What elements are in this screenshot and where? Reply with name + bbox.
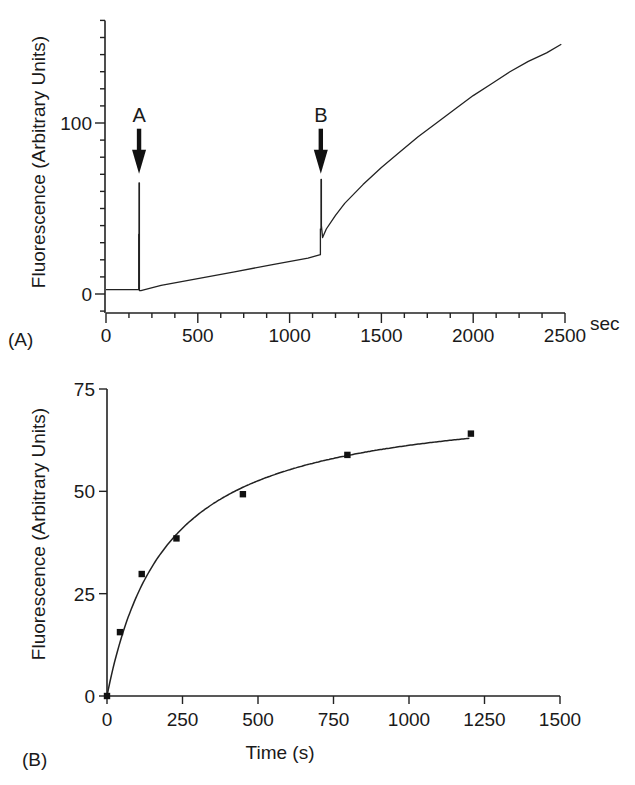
data-point	[468, 430, 474, 436]
panel-a-trace	[106, 44, 561, 290]
data-point	[344, 452, 350, 458]
data-point	[117, 629, 123, 635]
x-tick-label: 500	[242, 709, 274, 730]
x-tick-label: 2000	[452, 325, 494, 346]
x-tick-label: 1000	[388, 709, 430, 730]
x-tick-label: 0	[102, 709, 113, 730]
panel-a-axes	[95, 20, 565, 323]
panel-a-arrows: AB	[132, 104, 328, 174]
x-tick-label: 250	[167, 709, 199, 730]
arrow-head	[314, 150, 328, 174]
arrow-label: A	[132, 104, 146, 126]
panel-b-y-tick-labels: 0255075	[74, 379, 95, 707]
y-tick-label: 100	[60, 113, 92, 134]
x-tick-label: 1500	[360, 325, 402, 346]
panel-b-x-tick-labels: 0250500750100012501500	[102, 709, 581, 730]
panel-a-label: (A)	[8, 329, 33, 350]
panel-b-label: (B)	[22, 749, 47, 770]
x-tick-label: 1000	[268, 325, 310, 346]
panel-a-x-tick-labels: 05001000150020002500	[101, 325, 586, 346]
panel-a-y-tick-labels: 0100	[60, 113, 92, 305]
figure: Fluorescence (Arbitrary Units) AB 050010…	[0, 0, 635, 785]
panel-b-y-axis-label: Fluorescence (Arbitrary Units)	[28, 408, 49, 660]
arrow-down-icon	[319, 129, 323, 153]
data-point	[173, 535, 179, 541]
panel-a-y-axis-label: Fluorescence (Arbitrary Units)	[28, 36, 49, 288]
y-tick-label: 75	[74, 379, 95, 400]
fluorescence-trace	[106, 44, 561, 290]
arrow-marker-b: B	[314, 104, 328, 174]
panel-b-axes	[99, 389, 560, 704]
arrow-down-icon	[137, 129, 141, 153]
x-tick-label: 1500	[539, 709, 581, 730]
x-tick-label: 2500	[544, 325, 586, 346]
x-tick-label: 1250	[463, 709, 505, 730]
x-tick-label: 500	[182, 325, 214, 346]
chart-panel-b: Fluorescence (Arbitrary Units) 025050075…	[22, 379, 581, 770]
x-tick-label: 0	[101, 325, 112, 346]
data-point	[240, 491, 246, 497]
data-point	[139, 571, 145, 577]
x-tick-label: 750	[318, 709, 350, 730]
panel-b-fit-curve	[107, 438, 469, 696]
arrow-head	[132, 150, 146, 174]
panel-a-x-unit-label: sec	[590, 313, 620, 334]
y-tick-label: 0	[84, 686, 95, 707]
y-tick-label: 25	[74, 584, 95, 605]
arrow-label: B	[314, 104, 327, 126]
y-tick-label: 50	[74, 481, 95, 502]
panel-b-x-axis-label: Time (s)	[246, 742, 315, 763]
fit-curve	[107, 438, 469, 696]
arrow-marker-a: A	[132, 104, 146, 174]
chart-panel-a: Fluorescence (Arbitrary Units) AB 050010…	[8, 20, 620, 350]
data-point	[104, 693, 110, 699]
panel-b-data-points	[104, 430, 474, 699]
y-tick-label: 0	[81, 284, 92, 305]
